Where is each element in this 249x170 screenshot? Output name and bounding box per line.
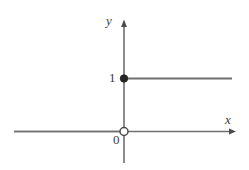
y-tick-label-one: 1 <box>109 71 116 84</box>
y-axis-arrowhead <box>121 20 127 28</box>
x-axis-label: x <box>225 113 231 126</box>
origin-label: 0 <box>113 133 120 146</box>
y-axis-label: y <box>106 14 112 27</box>
open-circle-origin-marker <box>120 128 128 136</box>
plot-canvas <box>0 0 249 170</box>
step-function-figure: y x 1 0 <box>0 0 249 170</box>
filled-dot-one-marker <box>120 75 127 82</box>
x-axis-arrowhead <box>229 129 236 135</box>
